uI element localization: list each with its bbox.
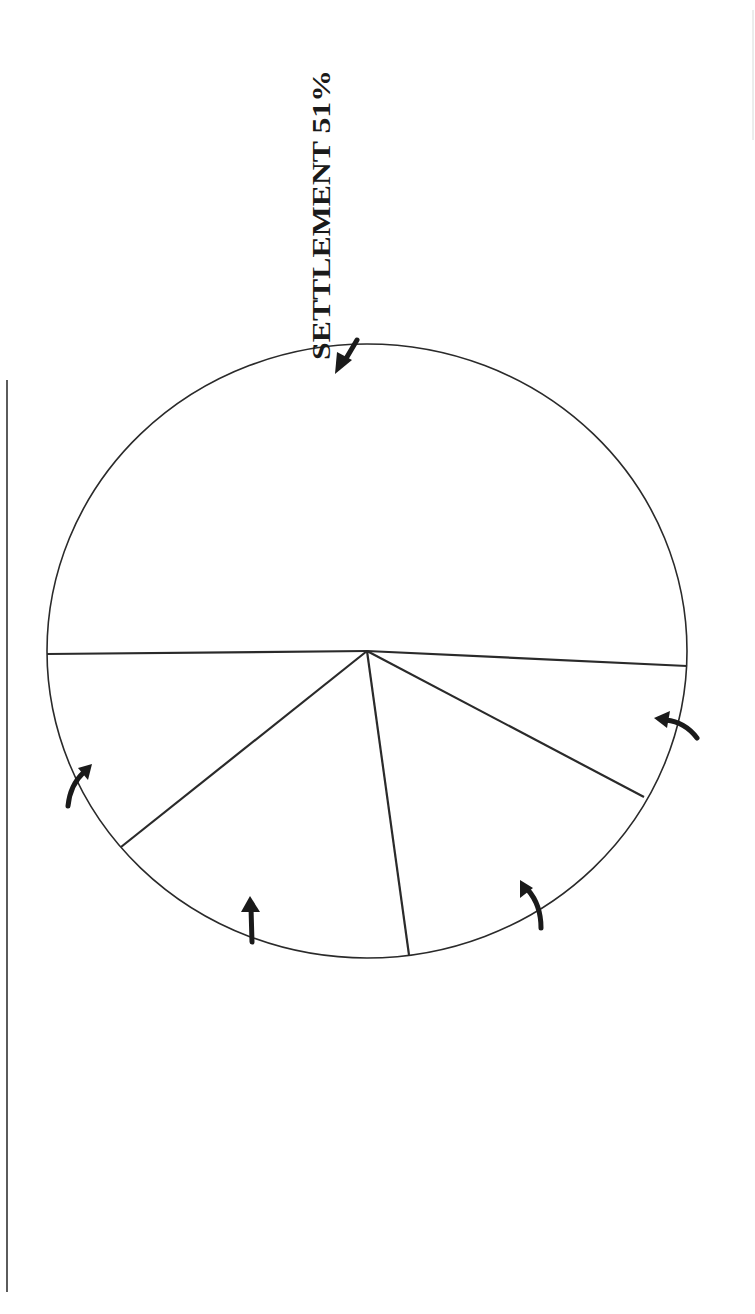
label-settlement: SETTLEMENT 51% [308,70,335,360]
pie-chart-figure: SETTLEMENT 51% TO ARBITRATION 11% POST C… [0,0,755,1314]
